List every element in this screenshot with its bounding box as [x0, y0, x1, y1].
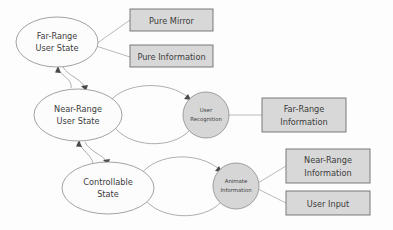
connector-far-to-near — [63, 67, 88, 91]
node-label-line2: User State — [36, 43, 79, 53]
edge-path — [110, 86, 189, 101]
diagram-svg: Far-Range User State Near-Range User Sta… — [0, 0, 393, 230]
connector-animate-to-near-range-information — [258, 166, 286, 183]
box-near-range-information[interactable]: Near-Range Information — [286, 149, 370, 183]
box-label-line1: Pure Mirror — [149, 16, 195, 26]
connector-animate-to-controllable — [141, 194, 221, 216]
node-near-range-user-state[interactable]: Near-Range User State — [34, 89, 122, 141]
node-label-line2: User State — [57, 116, 100, 126]
node-label-line1: Far-Range — [37, 31, 78, 41]
edge-path — [143, 197, 221, 216]
box-label-line1: Pure Information — [137, 52, 205, 62]
box-pure-mirror[interactable]: Pure Mirror — [130, 9, 213, 31]
connector-controllable-to-animate — [141, 157, 222, 174]
node-label-line2: State — [97, 189, 119, 199]
connector-user-recognition-to-near — [111, 122, 190, 144]
edge-path — [141, 157, 220, 174]
node-label-line2: Recognition — [190, 116, 222, 123]
connector-far-range-to-pure-mirror — [96, 20, 130, 44]
node-user-recognition[interactable]: User Recognition — [183, 92, 229, 138]
diagram-canvas: Far-Range User State Near-Range User Sta… — [0, 0, 393, 230]
node-label-line1: Controllable — [83, 177, 132, 187]
box-label-line1: User Input — [307, 199, 350, 209]
connector-controllable-to-near — [76, 140, 93, 163]
node-label-line1: Animate — [225, 178, 248, 184]
circle-shape — [183, 92, 229, 138]
node-label-line1: User — [200, 107, 213, 113]
connector-near-to-far — [55, 66, 71, 88]
box-user-input[interactable]: User Input — [286, 191, 370, 215]
edge-path — [113, 125, 190, 144]
node-label-line1: Near-Range — [54, 104, 102, 114]
box-label-line2: Information — [280, 117, 327, 127]
node-far-range-user-state[interactable]: Far-Range User State — [16, 17, 98, 67]
edge-path — [85, 142, 107, 162]
circle-shape — [213, 163, 259, 209]
box-pure-information[interactable]: Pure Information — [130, 45, 213, 67]
node-animate-information[interactable]: Animate Information — [213, 163, 259, 209]
connector-animate-to-user-input — [258, 189, 286, 203]
box-far-range-information[interactable]: Far-Range Information — [262, 98, 346, 132]
connector-near-to-user-recognition — [110, 86, 191, 101]
box-label-line2: Information — [304, 168, 351, 178]
node-label-line2: Information — [220, 187, 251, 193]
node-controllable-state[interactable]: Controllable State — [62, 162, 154, 214]
box-label-line1: Far-Range — [284, 104, 325, 114]
box-label-line1: Near-Range — [304, 155, 352, 165]
connector-far-range-to-pure-information — [96, 46, 130, 57]
connector-near-to-controllable — [85, 142, 110, 165]
